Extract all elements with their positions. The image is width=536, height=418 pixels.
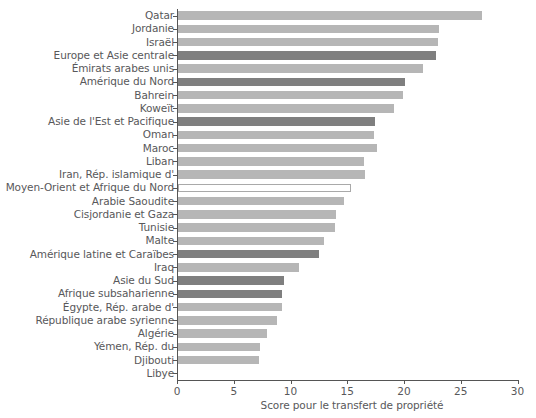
bar-row: Bahrein [0, 89, 536, 102]
x-axis-tick-label: 0 [174, 385, 181, 397]
bar [178, 78, 405, 87]
bar-row: Iraq [0, 261, 536, 274]
category-label: Émirats arabes unis [72, 62, 174, 75]
bar [178, 210, 336, 219]
bar-row: Libye [0, 367, 536, 380]
category-label: Libye [146, 367, 174, 380]
y-axis-tick [173, 307, 177, 308]
x-axis-tick [404, 380, 405, 384]
bar [178, 343, 260, 352]
bar [178, 237, 324, 246]
category-label: Afrique subsaharienne [58, 287, 174, 300]
bar [178, 11, 482, 20]
category-label: Djibouti [134, 354, 174, 367]
y-axis-tick [173, 95, 177, 96]
category-label: Israël [146, 36, 174, 49]
bar [178, 170, 365, 179]
bar [178, 250, 319, 259]
y-axis-tick [173, 294, 177, 295]
bar-chart: QatarJordanieIsraëlEurope et Asie centra… [0, 0, 536, 418]
category-label: Iraq [154, 261, 174, 274]
category-label: Bahrein [134, 89, 174, 102]
y-axis-tick [173, 148, 177, 149]
bar-row: Moyen-Orient et Afrique du Nord [0, 181, 536, 194]
bar-row: République arabe syrienne [0, 314, 536, 327]
category-label: Amérique latine et Caraïbes [30, 248, 174, 261]
bar-row: Iran, Rép. islamique d' [0, 168, 536, 181]
y-axis-tick [173, 175, 177, 176]
bar-row: Tunisie [0, 221, 536, 234]
bar-row: Israël [0, 36, 536, 49]
bar-row: Yémen, Rép. du [0, 340, 536, 353]
x-axis-tick-label: 15 [341, 385, 354, 397]
y-axis-tick [173, 334, 177, 335]
category-label: Cisjordanie et Gaza [74, 208, 174, 221]
bar-row: Jordanie [0, 22, 536, 35]
category-label: Maroc [143, 142, 174, 155]
category-label: Asie de l'Est et Pacifique [48, 115, 174, 128]
y-axis-tick [173, 29, 177, 30]
bar [178, 197, 344, 206]
bar-row: Amérique latine et Caraïbes [0, 248, 536, 261]
bar-row: Afrique subsaharienne [0, 287, 536, 300]
y-axis-tick [173, 161, 177, 162]
bar [178, 131, 374, 140]
bar-row: Djibouti [0, 354, 536, 367]
bar-row: Cisjordanie et Gaza [0, 208, 536, 221]
bar-row: Émirats arabes unis [0, 62, 536, 75]
x-axis-tick-label: 20 [397, 385, 410, 397]
y-axis-tick [173, 69, 177, 70]
y-axis-tick [173, 281, 177, 282]
category-label: Oman [143, 128, 174, 141]
y-axis-tick [173, 373, 177, 374]
bar-row: Asie de l'Est et Pacifique [0, 115, 536, 128]
y-axis-tick [173, 135, 177, 136]
y-axis-tick [173, 228, 177, 229]
bar [178, 157, 364, 166]
category-label: Liban [146, 155, 174, 168]
x-axis-tick-label: 10 [284, 385, 297, 397]
category-label: Asie du Sud [113, 274, 174, 287]
y-axis-tick [173, 320, 177, 321]
bar-row: Qatar [0, 9, 536, 22]
y-axis-tick [173, 55, 177, 56]
bar-row: Amérique du Nord [0, 75, 536, 88]
y-axis-tick [173, 122, 177, 123]
y-axis-tick [173, 42, 177, 43]
x-axis-tick [291, 380, 292, 384]
bar [178, 316, 277, 325]
y-axis-tick [173, 360, 177, 361]
bar-row: Arabie Saoudite [0, 195, 536, 208]
x-axis-tick-label: 25 [454, 385, 467, 397]
category-label: Moyen-Orient et Afrique du Nord [6, 181, 174, 194]
bar-row: Liban [0, 155, 536, 168]
y-axis-tick [173, 188, 177, 189]
x-axis-tick [177, 380, 178, 384]
y-axis-tick [173, 16, 177, 17]
bar [178, 51, 436, 60]
y-axis-tick [173, 82, 177, 83]
y-axis-tick [173, 214, 177, 215]
bar [178, 303, 282, 312]
category-label: Qatar [145, 9, 174, 22]
category-label: Koweït [140, 102, 174, 115]
bar-row: Algérie [0, 327, 536, 340]
bar [178, 184, 351, 193]
category-label: Iran, Rép. islamique d' [59, 168, 174, 181]
x-axis-title: Score pour le transfert de propriété [0, 399, 536, 411]
bar-rows: QatarJordanieIsraëlEurope et Asie centra… [0, 9, 536, 380]
bar [178, 25, 439, 34]
category-label: Tunisie [139, 221, 174, 234]
x-axis-tick [518, 380, 519, 384]
category-label: Jordanie [132, 22, 174, 35]
bar-row: Malte [0, 234, 536, 247]
bar [178, 38, 438, 47]
bar [178, 223, 335, 232]
x-axis-tick [234, 380, 235, 384]
bar [178, 91, 403, 100]
y-axis-tick [173, 201, 177, 202]
category-label: Égypte, Rép. arabe d' [63, 301, 174, 314]
category-label: République arabe syrienne [35, 314, 174, 327]
x-axis-title-text: Score pour le transfert de propriété [261, 399, 444, 411]
bar-row: Oman [0, 128, 536, 141]
